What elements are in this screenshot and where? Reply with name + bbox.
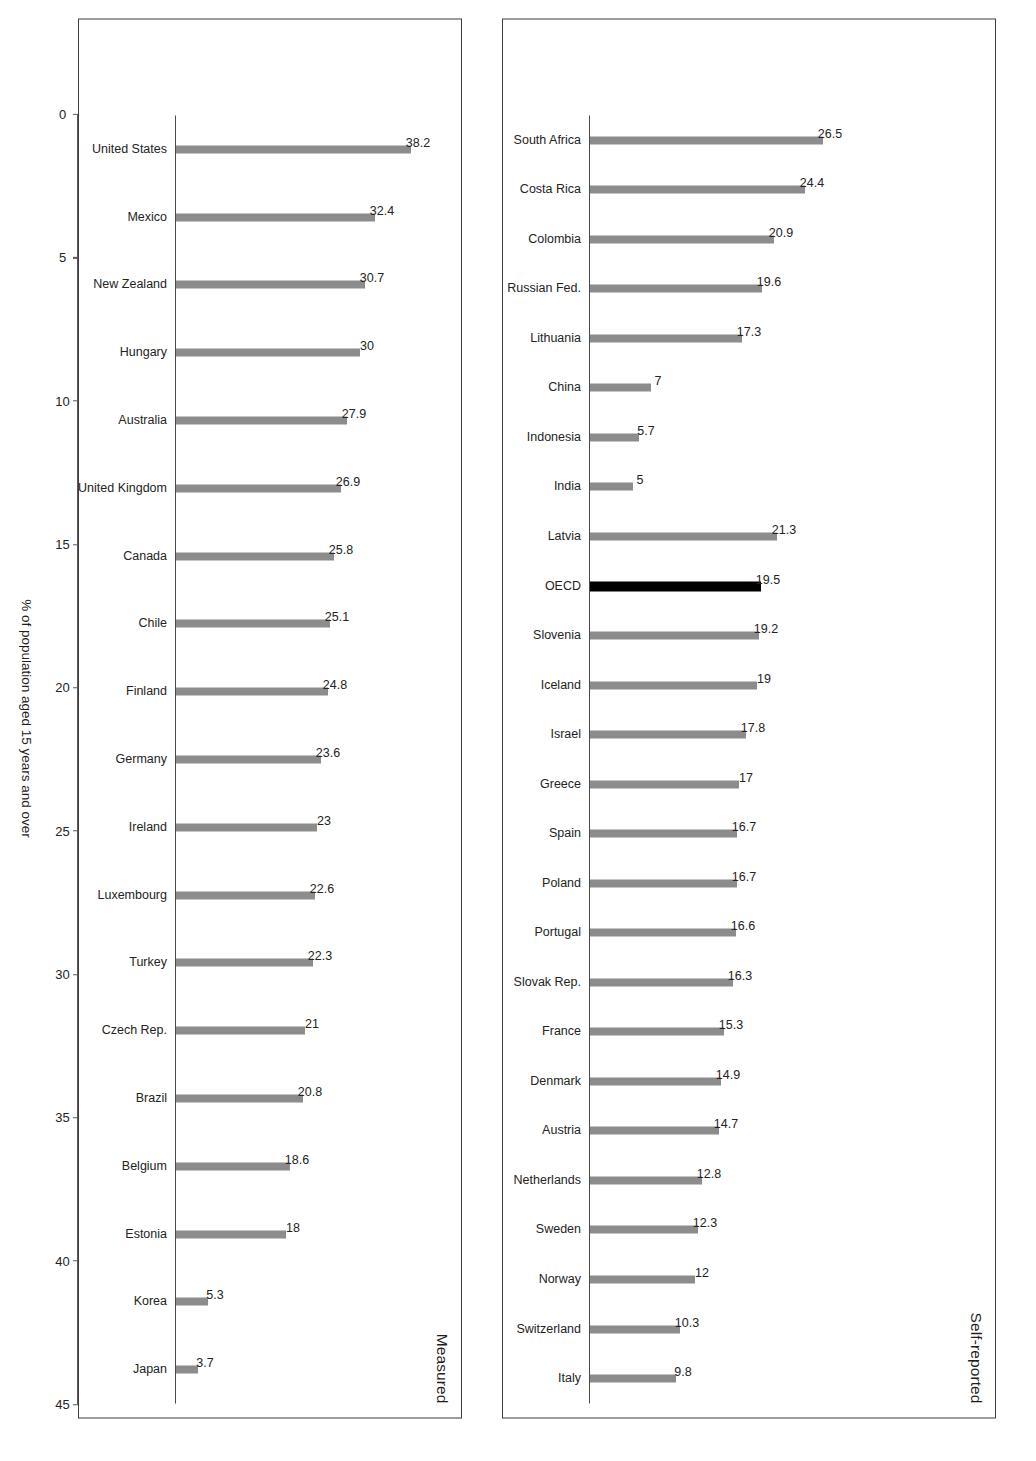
category-label: United States (92, 143, 167, 156)
bar-value-label: 32.4 (370, 204, 394, 217)
axis-tick: 45 (55, 1397, 78, 1411)
axis-tick: 15 (55, 537, 78, 551)
category-label: China (548, 381, 581, 394)
bar: 3.7 (175, 1365, 198, 1373)
bar-value-label: 19.6 (757, 276, 781, 289)
axis-tick: 40 (55, 1253, 78, 1267)
bar-value-label: 16.3 (728, 969, 752, 982)
bar: 15.3 (589, 1027, 724, 1035)
category-label: Switzerland (516, 1322, 581, 1335)
category-label: Slovak Rep. (514, 976, 581, 989)
bar-slot: 3.7Japan (175, 1335, 453, 1403)
category-label: Japan (133, 1363, 167, 1376)
bar-slot: 9.8Italy (589, 1353, 987, 1403)
axis-tick-mark (73, 1260, 78, 1261)
bar-value-label: 16.7 (732, 821, 756, 834)
bar-slot: 7China (589, 363, 987, 413)
bar-slot: 23.6Germany (175, 725, 453, 793)
bar-slot: 12.8Netherlands (589, 1155, 987, 1205)
bar-slot: 26.5South Africa (589, 115, 987, 165)
bar-slot: 24.4Costa Rica (589, 165, 987, 215)
bar-slot: 16.7Poland (589, 858, 987, 908)
bar-slot: 12Norway (589, 1254, 987, 1304)
bar-value-label: 18.6 (285, 1153, 309, 1166)
axis-tick-mark (73, 543, 78, 544)
category-label: United Kingdom (78, 482, 167, 495)
bar: 9.8 (589, 1374, 676, 1382)
category-label: Turkey (129, 956, 167, 969)
bar-slot: 21Czech Rep. (175, 996, 453, 1064)
bar-slot: 25.1Chile (175, 590, 453, 658)
category-label: Norway (539, 1273, 581, 1286)
category-label: Ireland (129, 821, 167, 834)
bar-group-self-reported: 26.5South Africa24.4Costa Rica20.9Colomb… (589, 115, 987, 1403)
panel-self-reported: Self-reported 26.5South Africa24.4Costa … (502, 18, 996, 1418)
bar-value-label: 22.6 (309, 882, 333, 895)
category-label: Costa Rica (520, 183, 581, 196)
bar-value-label: 30.7 (359, 272, 383, 285)
bar-value-label: 38.2 (406, 136, 430, 149)
category-label: Brazil (136, 1092, 167, 1105)
bar-value-label: 23 (317, 814, 331, 827)
bar-slot: 16.7Spain (589, 808, 987, 858)
plot-area-measured: 38.2United States32.4Mexico30.7New Zeala… (175, 115, 453, 1403)
bar-value-label: 27.9 (342, 408, 366, 421)
bar-slot: 5.3Korea (175, 1268, 453, 1336)
category-label: South Africa (514, 134, 581, 147)
category-label: Mexico (127, 210, 167, 223)
bar: 24.4 (589, 185, 805, 193)
bar-value-label: 9.8 (674, 1366, 691, 1379)
bar-slot: 20.8Brazil (175, 1064, 453, 1132)
axis-tick-mark (73, 973, 78, 974)
bar: 19.2 (589, 631, 759, 639)
bar-slot: 27.9Australia (175, 386, 453, 454)
axis-tick-mark (73, 1117, 78, 1118)
bar-value-label: 12.3 (693, 1217, 717, 1230)
bar-slot: 38.2United States (175, 115, 453, 183)
bar-value-label: 18 (286, 1221, 300, 1234)
bar-slot: 18.6Belgium (175, 1132, 453, 1200)
bar-slot: 22.6Luxembourg (175, 861, 453, 929)
axis-tick-mark (73, 687, 78, 688)
category-label: France (542, 1025, 581, 1038)
category-axis-line-measured (175, 115, 176, 1403)
bar: 20.9 (589, 235, 774, 243)
value-axis-ticks: 051015202530354045 (4, 114, 78, 1404)
category-label: Slovenia (533, 629, 581, 642)
bar: 18 (175, 1230, 286, 1238)
category-label: Sweden (536, 1223, 581, 1236)
axis-tick-label: 25 (55, 823, 69, 838)
bar-value-label: 14.7 (714, 1118, 738, 1131)
bar: 26.5 (589, 136, 823, 144)
axis-tick-mark (73, 830, 78, 831)
bar-value-label: 22.3 (308, 950, 332, 963)
bar: 19 (589, 681, 757, 689)
bar-value-label: 19.2 (754, 623, 778, 636)
bar-slot: 15.3France (589, 1007, 987, 1057)
bar-value-label: 16.6 (731, 920, 755, 933)
category-label: Poland (542, 876, 581, 889)
bar: 14.7 (589, 1126, 719, 1134)
bar: 24.8 (175, 687, 328, 695)
bar-value-label: 19 (757, 672, 771, 685)
category-label: Chile (139, 617, 168, 630)
bar-slot: 5India (589, 462, 987, 512)
axis-tick-mark (73, 400, 78, 401)
axis-tick: 35 (55, 1110, 78, 1124)
bar: 19.5 (589, 581, 761, 591)
bar: 17.8 (589, 730, 746, 738)
bar-slot: 21.3Latvia (589, 511, 987, 561)
category-label: Indonesia (527, 431, 581, 444)
bar: 32.4 (175, 213, 375, 221)
bar-value-label: 25.8 (329, 543, 353, 556)
bar: 12.8 (589, 1176, 702, 1184)
bar-value-label: 19.5 (756, 573, 780, 586)
bar: 16.7 (589, 879, 737, 887)
bar-value-label: 30 (360, 340, 374, 353)
bar-value-label: 26.9 (336, 475, 360, 488)
bar-slot: 12.3Sweden (589, 1205, 987, 1255)
bar: 16.7 (589, 829, 737, 837)
category-label: Netherlands (514, 1174, 581, 1187)
axis-title: % of population aged 15 years and over (19, 18, 34, 1418)
axis-tick-label: 20 (55, 680, 69, 695)
